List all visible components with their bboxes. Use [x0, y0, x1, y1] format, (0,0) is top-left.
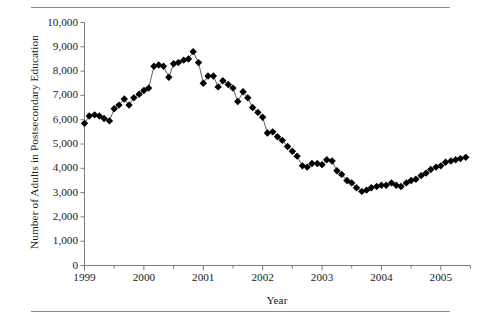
data-point-marker [195, 59, 202, 66]
chart-page: Number of Adults in Postsecondary Educat… [0, 0, 481, 324]
axes-lines [85, 23, 471, 266]
data-point-marker [462, 154, 469, 161]
data-point-marker [86, 112, 93, 119]
data-series-line [85, 52, 466, 192]
data-point-marker [328, 157, 335, 164]
data-point-marker [165, 73, 172, 80]
data-point-marker [210, 72, 217, 79]
data-point-marker [200, 80, 207, 87]
data-series-markers [81, 48, 470, 195]
axis-tick-marks [81, 23, 471, 271]
data-point-marker [189, 48, 196, 55]
data-point-marker [81, 120, 88, 127]
data-point-marker [234, 98, 241, 105]
data-point-marker [130, 94, 137, 101]
data-point-marker [264, 129, 271, 136]
chart-plot-area [0, 0, 481, 324]
